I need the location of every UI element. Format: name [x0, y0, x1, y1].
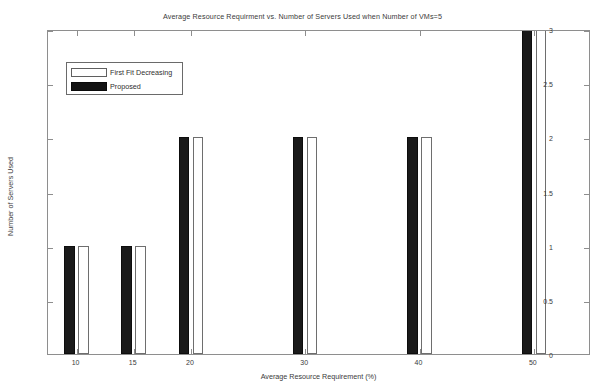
chart-figure: Average Resource Requirment vs. Number o… [0, 0, 605, 391]
y-tick-mark [584, 85, 589, 86]
bar-ffd-20 [193, 137, 204, 354]
bar-proposed-15 [121, 246, 132, 354]
y-tick-label: 0.5 [543, 297, 553, 304]
y-tick-mark [584, 248, 589, 249]
legend-item-first-fit-decreasing[interactable]: First Fit Decreasing [71, 66, 172, 78]
bar-proposed-30 [293, 137, 304, 354]
x-tick-mark [134, 31, 135, 36]
legend-label-first-fit-decreasing: First Fit Decreasing [110, 68, 172, 77]
legend-item-proposed[interactable]: Proposed [71, 80, 141, 92]
bar-proposed-50 [522, 30, 533, 354]
y-tick-label: 2.5 [543, 81, 553, 88]
x-tick-mark [191, 31, 192, 36]
x-tick-label: 20 [186, 359, 194, 366]
x-tick-mark [420, 31, 421, 36]
legend-swatch-proposed [71, 82, 107, 91]
x-tick-label: 10 [72, 359, 80, 366]
y-tick-mark [584, 194, 589, 195]
y-tick-mark [48, 248, 53, 249]
bar-ffd-40 [421, 137, 432, 354]
y-tick-mark [48, 31, 53, 32]
bar-proposed-20 [179, 137, 190, 354]
x-axis-title: Average Resource Requirement (%) [47, 372, 590, 381]
bar-proposed-10 [64, 246, 75, 354]
x-tick-mark [77, 31, 78, 36]
bar-ffd-15 [135, 246, 146, 354]
y-tick-mark [584, 302, 589, 303]
x-tick-label: 15 [129, 359, 137, 366]
x-tick-mark [305, 31, 306, 36]
legend-label-proposed: Proposed [110, 82, 141, 91]
x-tick-label: 40 [415, 359, 423, 366]
y-tick-label: 1 [549, 243, 553, 250]
legend-swatch-first-fit-decreasing [71, 68, 107, 77]
y-axis-title: Number of Servers Used [6, 117, 15, 277]
y-tick-mark [584, 31, 589, 32]
x-tick-label: 50 [529, 359, 537, 366]
chart-legend: First Fit Decreasing Proposed [66, 62, 183, 95]
y-tick-label: 1.5 [543, 189, 553, 196]
y-tick-label: 3 [549, 27, 553, 34]
y-tick-label: 2 [549, 135, 553, 142]
bar-proposed-40 [407, 137, 418, 354]
bar-ffd-10 [78, 246, 89, 354]
x-tick-label: 30 [300, 359, 308, 366]
y-tick-mark [584, 139, 589, 140]
y-tick-mark [48, 302, 53, 303]
y-tick-mark [48, 85, 53, 86]
y-tick-mark [48, 194, 53, 195]
chart-title: Average Resource Requirment vs. Number o… [0, 12, 605, 21]
bar-ffd-30 [307, 137, 318, 354]
y-tick-label: 0 [549, 352, 553, 359]
y-tick-mark [48, 139, 53, 140]
